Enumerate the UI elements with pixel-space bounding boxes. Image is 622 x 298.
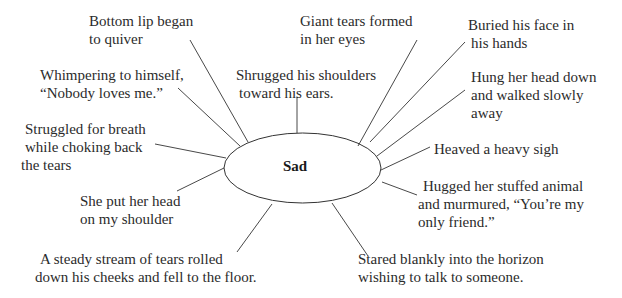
branch-text-line: “Nobody loves me.”	[40, 84, 184, 102]
branch-head-shoulder: She put her head on my shoulder	[80, 192, 180, 228]
branch-whimpering: Whimpering to himself, “Nobody loves me.…	[40, 66, 184, 102]
line-buried-face	[370, 42, 465, 142]
branch-heaved: Heaved a heavy sigh	[434, 140, 559, 158]
branch-text-line: and walked slowly	[471, 86, 596, 104]
line-stared	[332, 203, 368, 256]
branch-buried-face: Buried his face in his hands	[468, 16, 574, 52]
branch-text-line: wishing to talk to someone.	[358, 268, 544, 286]
branch-text-line: only friend.”	[418, 213, 584, 231]
branch-text-line: the tears	[21, 156, 146, 174]
center-topic-label: Sad	[283, 158, 307, 175]
branch-text-line: down his cheeks and fell to the floor.	[35, 268, 257, 286]
branch-bottom-lip: Bottom lip began to quiver	[89, 12, 193, 48]
branch-text-line: away	[471, 104, 596, 122]
line-hugged	[382, 182, 417, 195]
line-steady-stream	[237, 204, 272, 252]
branch-text-line: Whimpering to himself,	[40, 66, 184, 84]
branch-giant-tears: Giant tears formed in her eyes	[300, 12, 412, 48]
branch-text-line: and murmured, “You’re my	[418, 195, 584, 213]
line-whimpering	[178, 88, 240, 146]
branch-steady-stream: A steady stream of tears rolled down his…	[35, 250, 257, 286]
line-head-shoulder	[177, 168, 224, 191]
branch-text-line: Heaved a heavy sigh	[434, 140, 559, 158]
branch-hung-head: Hung her head down and walked slowly awa…	[471, 68, 596, 122]
line-heaved	[381, 147, 430, 170]
branch-text-line: Shrugged his shoulders	[236, 66, 376, 84]
branch-text-line: Bottom lip began	[89, 12, 193, 30]
branch-text-line: Hugged her stuffed animal	[418, 177, 584, 195]
branch-text-line: while choking back	[21, 138, 146, 156]
branch-text-line: Hung her head down	[471, 68, 596, 86]
word-web-diagram: Sad Bottom lip began to quiver Giant tea…	[0, 0, 622, 298]
branch-text-line: Stared blankly into the horizon	[358, 250, 544, 268]
branch-stared: Stared blankly into the horizon wishing …	[358, 250, 544, 286]
branch-text-line: Buried his face in	[468, 16, 574, 34]
branch-text-line: on my shoulder	[80, 210, 180, 228]
branch-text-line: to quiver	[89, 30, 193, 48]
branch-shrugged: Shrugged his shoulders toward his ears.	[236, 66, 376, 102]
branch-text-line: in her eyes	[300, 30, 412, 48]
branch-text-line: A steady stream of tears rolled	[35, 250, 257, 268]
line-struggled	[155, 144, 226, 158]
branch-struggled: Struggled for breath while choking back …	[21, 120, 146, 174]
branch-text-line: She put her head	[80, 192, 180, 210]
branch-text-line: toward his ears.	[236, 84, 376, 102]
branch-text-line: his hands	[468, 34, 574, 52]
branch-text-line: Struggled for breath	[21, 120, 146, 138]
branch-text-line: Giant tears formed	[300, 12, 412, 30]
branch-hugged: Hugged her stuffed animal and murmured, …	[418, 177, 584, 231]
